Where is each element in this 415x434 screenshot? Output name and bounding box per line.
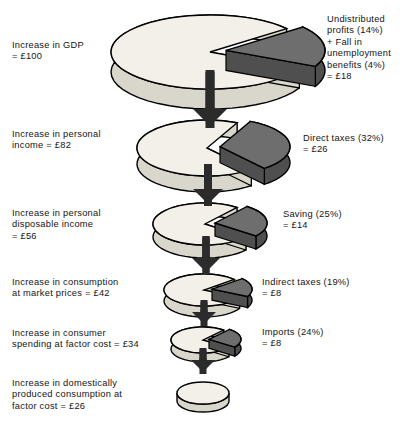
label-domestic-consumption-left: Increase in domestically produced consum… xyxy=(12,378,172,412)
pie-consumption-market-prices xyxy=(164,274,252,317)
label-gdp-left: Increase in GDP = £100 xyxy=(12,40,130,63)
label-saving-right: Saving (25%) = £14 xyxy=(283,209,383,232)
label-direct-taxes-right: Direct taxes (32%) = £26 xyxy=(303,133,415,156)
label-consumption-market-prices-left: Increase in consumption at market prices… xyxy=(12,277,162,300)
label-personal-income-left: Increase in personal income = £82 xyxy=(12,129,140,152)
label-indirect-taxes-right: Indirect taxes (19%) = £8 xyxy=(262,277,374,300)
label-undistributed-profits-right: Undistributed profits (14%) + Fall in un… xyxy=(327,14,415,82)
pie-gdp xyxy=(111,15,325,109)
pie-personal-disposable-income xyxy=(153,203,267,258)
pie-domestic-consumption-factor-cost xyxy=(177,382,229,412)
label-personal-disposable-income-left: Increase in personal disposable income =… xyxy=(12,208,140,242)
flow-diagram: Increase in GDP = £100 Increase in perso… xyxy=(0,0,415,434)
label-consumer-spending-left: Increase in consumer spending at factor … xyxy=(12,328,177,351)
label-imports-right: Imports (24%) = £8 xyxy=(262,327,362,350)
pie-personal-income xyxy=(137,120,290,192)
